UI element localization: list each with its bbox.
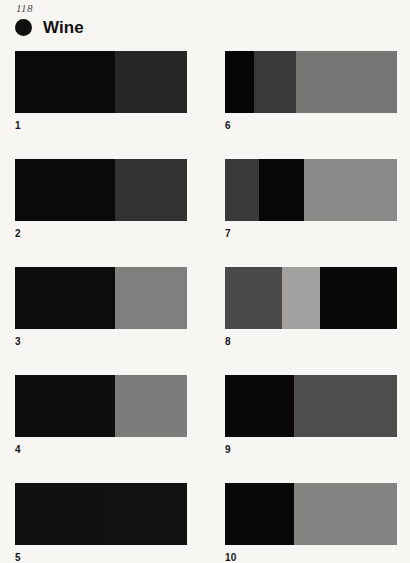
swatch-bar[interactable] xyxy=(225,51,397,113)
swatch-segment xyxy=(294,375,397,437)
swatch-segment xyxy=(115,375,187,437)
swatch-segment xyxy=(225,159,259,221)
swatch-grid: 16273849510 xyxy=(15,51,395,563)
swatch-label: 10 xyxy=(225,552,397,563)
swatch-cell[interactable]: 5 xyxy=(15,483,187,563)
palette-title-row: Wine xyxy=(15,19,395,36)
swatch-segment xyxy=(296,51,397,113)
swatch-segment xyxy=(225,483,294,545)
swatch-segment xyxy=(282,267,320,329)
swatch-label: 3 xyxy=(15,336,187,347)
swatch-segment xyxy=(225,267,282,329)
swatch-segment xyxy=(15,375,115,437)
swatch-bar[interactable] xyxy=(15,483,187,545)
swatch-cell[interactable]: 6 xyxy=(225,51,397,131)
swatch-bar[interactable] xyxy=(15,375,187,437)
swatch-segment xyxy=(15,267,115,329)
swatch-bar[interactable] xyxy=(15,159,187,221)
swatch-cell[interactable]: 2 xyxy=(15,159,187,239)
swatch-cell[interactable]: 1 xyxy=(15,51,187,131)
swatch-cell[interactable]: 8 xyxy=(225,267,397,347)
swatch-segment xyxy=(15,483,103,545)
page-title: Wine xyxy=(43,19,84,36)
swatch-segment xyxy=(103,483,187,545)
swatch-cell[interactable]: 3 xyxy=(15,267,187,347)
swatch-segment xyxy=(225,51,254,113)
swatch-segment xyxy=(115,51,187,113)
swatch-bar[interactable] xyxy=(225,375,397,437)
swatch-label: 2 xyxy=(15,228,187,239)
swatch-label: 6 xyxy=(225,120,397,131)
swatch-label: 4 xyxy=(15,444,187,455)
swatch-label: 8 xyxy=(225,336,397,347)
swatch-segment xyxy=(15,51,115,113)
page-header: 118 Wine xyxy=(15,0,395,36)
swatch-cell[interactable]: 10 xyxy=(225,483,397,563)
swatch-segment xyxy=(320,267,397,329)
swatch-bar[interactable] xyxy=(225,267,397,329)
swatch-label: 5 xyxy=(15,552,187,563)
swatch-cell[interactable]: 9 xyxy=(225,375,397,455)
swatch-segment xyxy=(254,51,295,113)
swatch-segment xyxy=(115,267,187,329)
swatch-segment xyxy=(259,159,304,221)
swatch-label: 1 xyxy=(15,120,187,131)
filled-circle-icon xyxy=(15,19,32,36)
swatch-cell[interactable]: 7 xyxy=(225,159,397,239)
page-number: 118 xyxy=(16,3,395,14)
swatch-bar[interactable] xyxy=(225,159,397,221)
swatch-segment xyxy=(15,159,115,221)
swatch-segment xyxy=(304,159,397,221)
swatch-label: 7 xyxy=(225,228,397,239)
swatch-label: 9 xyxy=(225,444,397,455)
swatch-segment xyxy=(115,159,187,221)
swatch-bar[interactable] xyxy=(15,51,187,113)
swatch-segment xyxy=(225,375,294,437)
swatch-segment xyxy=(294,483,397,545)
swatch-bar[interactable] xyxy=(225,483,397,545)
swatch-cell[interactable]: 4 xyxy=(15,375,187,455)
swatch-bar[interactable] xyxy=(15,267,187,329)
